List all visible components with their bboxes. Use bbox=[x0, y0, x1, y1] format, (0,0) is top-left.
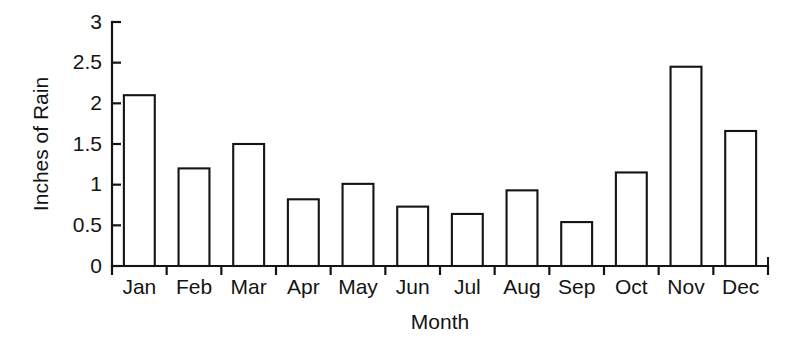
bar-mar bbox=[233, 144, 264, 266]
bar-may bbox=[343, 184, 374, 266]
bar-sep bbox=[561, 222, 592, 266]
bar-aug bbox=[507, 190, 538, 266]
x-axis-title: Month bbox=[411, 310, 469, 333]
bar-oct bbox=[616, 172, 647, 266]
y-tick-label-0: 0 bbox=[90, 254, 102, 277]
x-tick-label-apr: Apr bbox=[287, 275, 320, 298]
x-tick-label-jul: Jul bbox=[454, 275, 481, 298]
bar-feb bbox=[179, 168, 210, 266]
x-tick-label-oct: Oct bbox=[615, 275, 648, 298]
y-tick-label-2.5: 2.5 bbox=[73, 50, 102, 73]
y-tick-label-1.5: 1.5 bbox=[73, 132, 102, 155]
bar-jun bbox=[397, 207, 428, 266]
x-tick-label-aug: Aug bbox=[503, 275, 540, 298]
rainfall-bar-chart: 00.511.522.53 JanFebMarAprMayJunJulAugSe… bbox=[0, 0, 795, 343]
bar-jul bbox=[452, 214, 483, 266]
x-tick-label-nov: Nov bbox=[667, 275, 705, 298]
x-tick-label-dec: Dec bbox=[722, 275, 759, 298]
bar-dec bbox=[725, 131, 756, 266]
x-tick-labels: JanFebMarAprMayJunJulAugSepOctNovDec bbox=[122, 275, 759, 298]
x-tick-label-may: May bbox=[338, 275, 378, 298]
y-tick-label-1: 1 bbox=[90, 172, 102, 195]
y-axis bbox=[112, 22, 121, 266]
y-tick-labels: 00.511.522.53 bbox=[73, 10, 102, 277]
bar-series bbox=[124, 67, 756, 266]
bar-apr bbox=[288, 199, 319, 266]
x-tick-label-mar: Mar bbox=[231, 275, 267, 298]
chart-canvas: 00.511.522.53 JanFebMarAprMayJunJulAugSe… bbox=[0, 0, 795, 343]
x-tick-label-jun: Jun bbox=[396, 275, 430, 298]
y-tick-label-3: 3 bbox=[90, 10, 102, 33]
y-tick-label-0.5: 0.5 bbox=[73, 213, 102, 236]
bar-nov bbox=[671, 67, 702, 266]
x-tick-label-feb: Feb bbox=[176, 275, 212, 298]
y-axis-title: Inches of Rain bbox=[29, 77, 52, 211]
x-tick-label-sep: Sep bbox=[558, 275, 595, 298]
bar-jan bbox=[124, 95, 155, 266]
y-tick-label-2: 2 bbox=[90, 91, 102, 114]
x-tick-label-jan: Jan bbox=[122, 275, 156, 298]
